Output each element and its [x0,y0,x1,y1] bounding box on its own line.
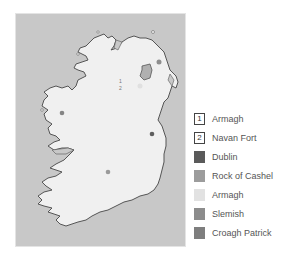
croagh-patrick-marker [60,111,65,116]
legend-item-rock-of-cashel: Rock of Cashel [194,166,290,185]
legend-item-navan-fort: 2 Navan Fort [194,128,290,147]
island [97,31,99,33]
legend-label: Navan Fort [212,132,257,144]
map-of-ireland: 1 2 [15,13,186,247]
legend-label: Armagh [212,189,244,201]
marker-1-label: 1 [119,78,122,84]
island [77,53,80,56]
legend-number-box: 1 [194,113,205,125]
legend-item-dublin: Dublin [194,147,290,166]
legend-item-croagh-patrick: Croagh Patrick [194,223,290,242]
legend-item-armagh-1: 1 Armagh [194,109,290,128]
legend-number-box: 2 [194,132,205,144]
legend-swatch-rock-of-cashel [194,170,205,182]
marker-2-label: 2 [119,85,122,91]
lough-neagh [140,64,152,80]
dublin-marker [150,132,155,137]
rock-of-cashel-marker [106,170,111,175]
legend-swatch-slemish [194,208,205,220]
legend-label: Rock of Cashel [212,170,273,182]
legend-item-slemish: Slemish [194,204,290,223]
slemish-marker [157,60,162,65]
legend-swatch-armagh [194,189,205,201]
island [152,31,155,34]
island [41,109,44,112]
legend-label: Croagh Patrick [212,227,272,239]
legend-label: Armagh [212,113,244,125]
legend-swatch-dublin [194,151,205,163]
legend-item-armagh-2: Armagh [194,185,290,204]
armagh-area-marker [138,84,143,89]
legend-label: Dublin [212,151,238,163]
legend-swatch-croagh-patrick [194,227,205,239]
ireland-outline: 1 2 [16,14,186,247]
map-legend: 1 Armagh 2 Navan Fort Dublin Rock of Cas… [194,109,290,242]
legend-label: Slemish [212,208,244,220]
